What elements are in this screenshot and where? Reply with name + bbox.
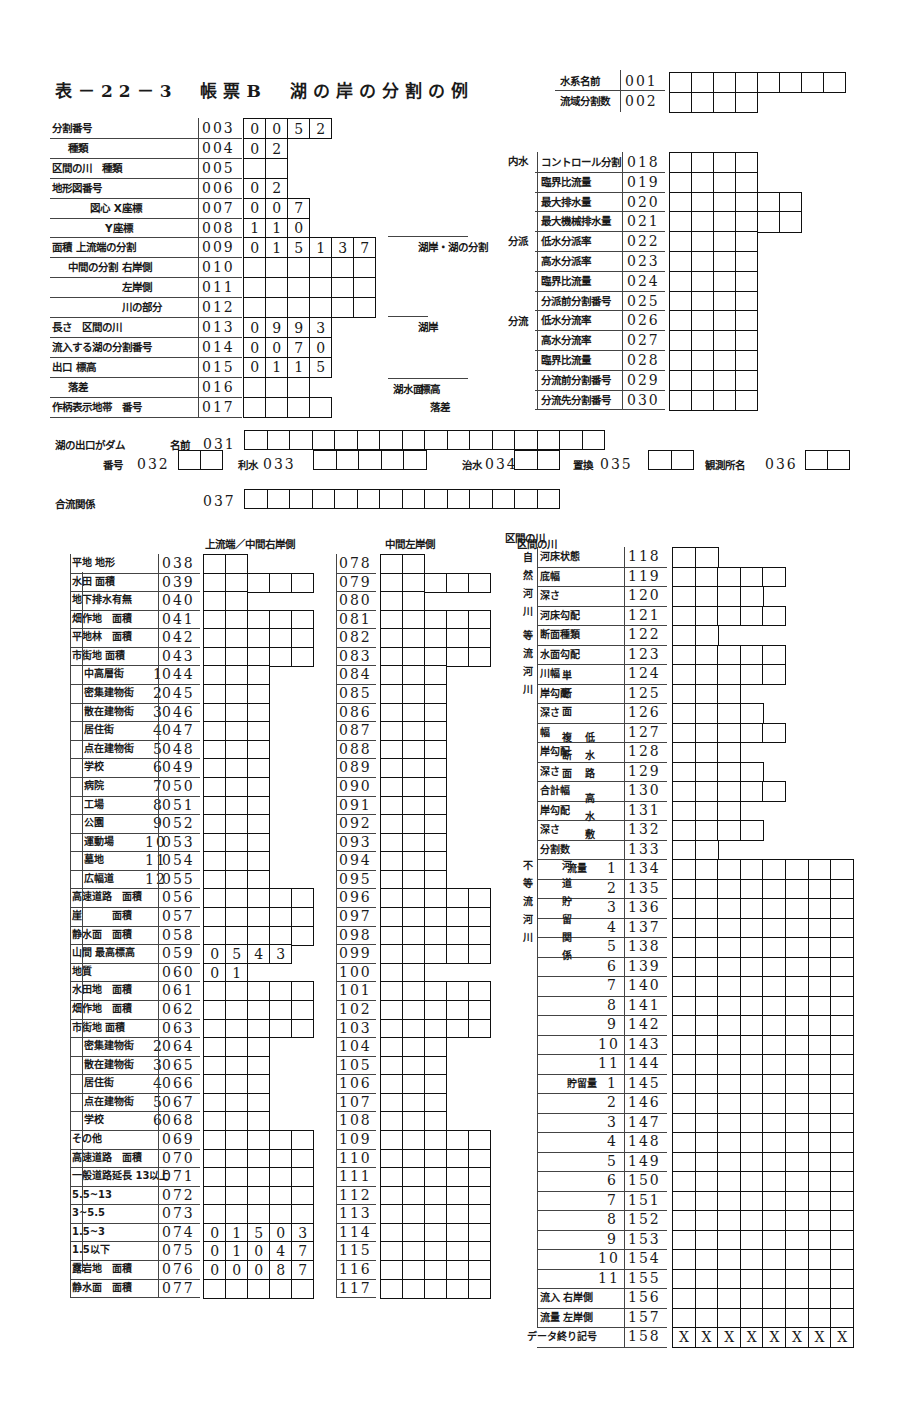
field-101-box-2[interactable] xyxy=(402,981,425,1001)
field-140-box-8[interactable] xyxy=(830,976,854,997)
field-012-box-2[interactable] xyxy=(265,297,288,318)
field-130-box-1[interactable] xyxy=(672,781,696,802)
field-087-box-1[interactable] xyxy=(380,721,403,741)
field-041-box-5[interactable] xyxy=(291,610,314,630)
field-152-box-4[interactable] xyxy=(740,1210,764,1231)
field-154-box-5[interactable] xyxy=(762,1249,786,1270)
field-121-box-1[interactable] xyxy=(672,606,696,627)
field-020-box-2[interactable] xyxy=(691,192,714,213)
field-051-box-2[interactable] xyxy=(225,796,248,816)
field-052-box-2[interactable] xyxy=(225,814,248,834)
field-024-box-2[interactable] xyxy=(691,271,714,292)
field-094-box-1[interactable] xyxy=(380,851,403,871)
field-022-box-1[interactable] xyxy=(669,231,692,252)
confluence-box-2[interactable] xyxy=(267,489,291,509)
field-026-box-4[interactable] xyxy=(735,310,758,331)
field-074-box-1[interactable]: 0 xyxy=(203,1223,226,1243)
field-003-box-2[interactable]: 0 xyxy=(265,118,288,139)
field-115-box-3[interactable] xyxy=(424,1241,447,1261)
field-097-box-2[interactable] xyxy=(402,907,425,927)
field-055-box-1[interactable] xyxy=(203,870,226,890)
field-057-box-5[interactable] xyxy=(291,907,314,927)
field-151-box-2[interactable] xyxy=(695,1191,719,1212)
field-064-box-1[interactable] xyxy=(203,1037,226,1057)
field-148-box-6[interactable] xyxy=(785,1132,809,1153)
field-053-box-1[interactable] xyxy=(203,833,226,853)
header-field-001-box-8[interactable] xyxy=(823,72,846,93)
field-042-box-3[interactable] xyxy=(247,628,270,648)
field-013-box-1[interactable]: 0 xyxy=(243,317,266,338)
field-041-box-3[interactable] xyxy=(247,610,270,630)
field-055-box-3[interactable] xyxy=(247,870,270,890)
dam-name-box-14[interactable] xyxy=(537,430,561,450)
field-029-box-4[interactable] xyxy=(735,370,758,391)
field-127-box-5[interactable] xyxy=(762,723,786,744)
field-148-box-8[interactable] xyxy=(830,1132,854,1153)
field-077-box-3[interactable] xyxy=(247,1279,270,1299)
field-105-box-2[interactable] xyxy=(402,1056,425,1076)
field-106-box-3[interactable] xyxy=(424,1074,447,1094)
field-126-box-2[interactable] xyxy=(695,703,719,724)
field-007-box-1[interactable]: 0 xyxy=(243,198,266,219)
field-090-box-1[interactable] xyxy=(380,777,403,797)
field-099-box-2[interactable] xyxy=(402,944,425,964)
field-144-box-2[interactable] xyxy=(695,1054,719,1075)
field-098-box-5[interactable] xyxy=(468,926,491,946)
field-137-box-7[interactable] xyxy=(808,918,832,939)
field-152-box-2[interactable] xyxy=(695,1210,719,1231)
field-141-box-8[interactable] xyxy=(830,996,854,1017)
field-021-box-3[interactable] xyxy=(713,211,736,232)
field-075-box-4[interactable]: 4 xyxy=(269,1241,292,1261)
field-091-box-2[interactable] xyxy=(402,796,425,816)
field-019-box-2[interactable] xyxy=(691,172,714,193)
field-147-box-5[interactable] xyxy=(762,1113,786,1134)
field-141-box-3[interactable] xyxy=(717,996,741,1017)
field-154-box-3[interactable] xyxy=(717,1249,741,1270)
field-106-box-1[interactable] xyxy=(380,1074,403,1094)
field-155-box-5[interactable] xyxy=(762,1269,786,1290)
field-118-box-1[interactable] xyxy=(672,547,696,568)
dam-irrigation-box-4[interactable] xyxy=(381,450,405,470)
field-074-box-4[interactable]: 0 xyxy=(269,1223,292,1243)
field-083-box-3[interactable] xyxy=(424,647,447,667)
field-030-box-2[interactable] xyxy=(691,390,714,411)
field-131-box-3[interactable] xyxy=(717,801,741,822)
field-109-box-4[interactable] xyxy=(446,1130,469,1150)
field-069-box-3[interactable] xyxy=(247,1130,270,1150)
field-156-box-3[interactable] xyxy=(717,1288,741,1309)
field-039-box-5[interactable] xyxy=(291,573,314,593)
field-125-box-2[interactable] xyxy=(695,684,719,705)
field-119-box-4[interactable] xyxy=(740,567,764,588)
field-075-box-1[interactable]: 0 xyxy=(203,1241,226,1261)
field-064-box-2[interactable] xyxy=(225,1037,248,1057)
field-136-box-1[interactable] xyxy=(672,898,696,919)
field-049-box-1[interactable] xyxy=(203,758,226,778)
field-141-box-1[interactable] xyxy=(672,996,696,1017)
field-113-box-5[interactable] xyxy=(468,1204,491,1224)
field-062-box-2[interactable] xyxy=(225,1000,248,1020)
field-140-box-4[interactable] xyxy=(740,976,764,997)
field-135-box-4[interactable] xyxy=(740,879,764,900)
field-039-box-4[interactable] xyxy=(269,573,292,593)
field-041-box-1[interactable] xyxy=(203,610,226,630)
field-041-box-2[interactable] xyxy=(225,610,248,630)
field-156-box-7[interactable] xyxy=(808,1288,832,1309)
field-144-box-3[interactable] xyxy=(717,1054,741,1075)
field-132-box-2[interactable] xyxy=(695,820,719,841)
field-112-box-3[interactable] xyxy=(424,1186,447,1206)
field-104-box-1[interactable] xyxy=(380,1037,403,1057)
field-151-box-5[interactable] xyxy=(762,1191,786,1212)
field-149-box-7[interactable] xyxy=(808,1152,832,1173)
field-126-box-1[interactable] xyxy=(672,703,696,724)
field-139-box-6[interactable] xyxy=(785,957,809,978)
field-029-box-3[interactable] xyxy=(713,370,736,391)
field-095-box-3[interactable] xyxy=(424,870,447,890)
field-136-box-7[interactable] xyxy=(808,898,832,919)
field-101-box-5[interactable] xyxy=(468,981,491,1001)
field-103-box-5[interactable] xyxy=(468,1019,491,1039)
field-044-box-1[interactable] xyxy=(203,665,226,685)
field-147-box-1[interactable] xyxy=(672,1113,696,1134)
field-061-box-3[interactable] xyxy=(247,981,270,1001)
field-027-box-2[interactable] xyxy=(691,330,714,351)
field-121-box-5[interactable] xyxy=(762,606,786,627)
